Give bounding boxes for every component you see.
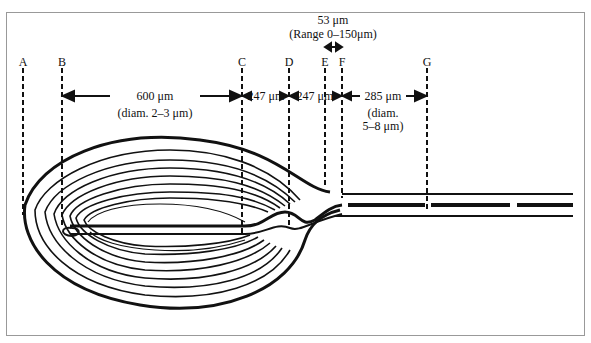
nerve-fiber xyxy=(335,194,573,216)
marker-label-f: F xyxy=(339,56,346,69)
corpuscle-illustration xyxy=(0,0,591,343)
marker-label-e: E xyxy=(321,56,328,69)
segment-df-length: 247 μm xyxy=(297,90,334,103)
marker-label-g: G xyxy=(423,56,432,69)
marker-label-c: C xyxy=(238,56,246,69)
marker-label-b: B xyxy=(58,56,66,69)
segment-bc-length: 600 μm xyxy=(137,90,174,103)
segment-fg-diameter-2: 5–8 μm) xyxy=(363,120,404,133)
top-annotation-range: (Range 0–150μm) xyxy=(289,28,376,41)
segment-fg-length: 285 μm xyxy=(365,90,402,103)
marker-label-d: D xyxy=(285,56,294,69)
marker-label-a: A xyxy=(19,56,28,69)
segment-cd-length: 247 μm xyxy=(248,90,285,103)
segment-bc-diameter: (diam. 2–3 μm) xyxy=(118,107,193,120)
top-annotation-length: 53 μm xyxy=(318,14,349,27)
